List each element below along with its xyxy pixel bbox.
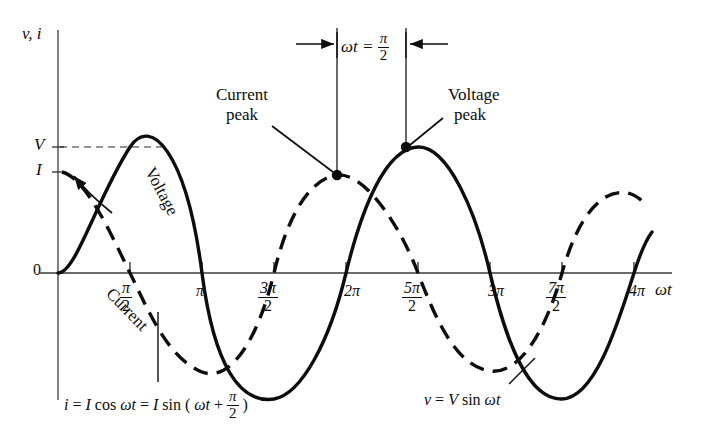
current-peak-callout: Current peak	[200, 86, 284, 123]
current-eq-paren-open: (	[185, 396, 190, 413]
current-eq-arg-2: ωt	[194, 396, 210, 413]
voltage-equation: v = V sin ωt	[424, 392, 500, 408]
waveform-plot	[0, 0, 706, 447]
x-tick-label-7pi-over-2: 7π 2	[546, 281, 566, 316]
voltage-eq-amplitude: V	[448, 391, 458, 408]
voltage-peak-callout: Voltage peak	[448, 86, 532, 123]
current-eq-sin: sin	[162, 396, 181, 413]
current-eq-cos: cos	[95, 396, 116, 413]
current-eq-paren-close: )	[243, 396, 248, 413]
current-eq-arg-1: ωt	[120, 396, 136, 413]
voltage-eq-sin: sin	[462, 391, 481, 408]
current-amplitude-label: I	[36, 161, 42, 178]
tick-frac-den: 2	[546, 298, 566, 315]
x-tick-label-4pi: 4π	[629, 283, 645, 299]
figure-canvas: v, i 0 V I ωt π 2 π 3π 2 2π 5π 2 3π 7π 2	[0, 0, 706, 447]
origin-label: 0	[33, 262, 41, 278]
voltage-amplitude-label: V	[34, 136, 44, 153]
current-equation: i = I cos ωt = I sin ( ωt + π 2 )	[64, 390, 248, 423]
current-eq-frac-num: π	[227, 389, 239, 406]
phase-shift-annotation: ωt = π 2	[341, 32, 389, 65]
x-tick-label-pi: π	[196, 283, 204, 299]
current-eq-plus: +	[214, 396, 223, 413]
axis-lines	[40, 30, 672, 400]
x-tick-marks	[130, 262, 634, 273]
x-axis-label: ωt	[655, 281, 672, 298]
x-tick-label-3pi-over-2: 3π 2	[258, 281, 278, 316]
current-peak-leader	[272, 126, 333, 172]
tick-frac-num: 7π	[546, 280, 566, 298]
tick-frac-den: 2	[258, 298, 278, 315]
current-peak-callout-line1: Current	[200, 86, 284, 103]
phase-shift-prefix: ωt =	[341, 37, 373, 56]
voltage-peak-callout-line2: peak	[454, 106, 532, 123]
voltage-eq-equals: =	[435, 391, 444, 408]
x-tick-label-2pi: 2π	[344, 283, 360, 299]
y-axis-label: v, i	[22, 25, 42, 42]
current-eq-amplitude-1: I	[85, 396, 90, 413]
voltage-eq-arg: ωt	[485, 391, 501, 408]
voltage-peak-dot	[401, 142, 411, 152]
current-eq-amplitude-2: I	[153, 396, 158, 413]
voltage-peak-leader	[410, 118, 443, 145]
x-tick-label-3pi: 3π	[488, 283, 504, 299]
phase-shift-frac-den: 2	[378, 48, 390, 64]
current-eq-equals-1: =	[72, 396, 81, 413]
voltage-eq-lhs: v	[424, 391, 431, 408]
phase-shift-frac-num: π	[378, 31, 390, 48]
current-eq-lhs: i	[64, 396, 68, 413]
voltage-peak-callout-line1: Voltage	[448, 86, 532, 103]
current-eq-frac-den: 2	[227, 406, 239, 422]
tick-frac-den: 2	[402, 298, 422, 315]
current-peak-callout-line2: peak	[200, 106, 284, 123]
current-eq-equals-2: =	[140, 396, 149, 413]
tick-frac-num: 5π	[402, 280, 422, 298]
x-tick-label-5pi-over-2: 5π 2	[402, 281, 422, 316]
tick-frac-num: 3π	[258, 280, 278, 298]
